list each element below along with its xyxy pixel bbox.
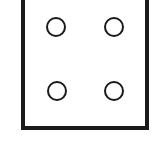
box-outline <box>23 0 147 128</box>
circle-top-right <box>105 18 123 36</box>
circle-bottom-right <box>105 82 123 100</box>
circle-bottom-left <box>48 82 66 100</box>
circle-top-left <box>47 18 65 36</box>
diagram-canvas <box>0 0 164 144</box>
